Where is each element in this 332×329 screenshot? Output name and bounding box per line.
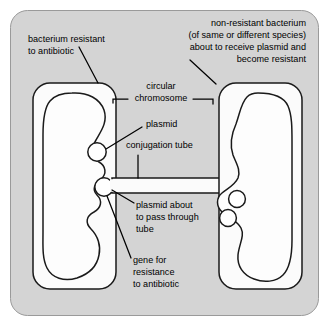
label-plasmid-passing-line-2: to pass through bbox=[136, 212, 199, 222]
label-resistance-gene-line-1: gene for bbox=[133, 255, 166, 265]
label-right-cell-line-4: become resistant bbox=[237, 54, 307, 64]
label-right-cell-line-2: (of same or different species) bbox=[188, 30, 306, 40]
right-plasmid-upper bbox=[229, 191, 246, 208]
label-left-cell-line-1: bacterium resistant bbox=[28, 34, 105, 44]
label-chromosome-line-1: circular bbox=[146, 81, 175, 91]
label-left-cell-line-2: to antibiotic bbox=[28, 46, 74, 56]
label-chromosome-line-2: chromosome bbox=[135, 93, 188, 103]
label-resistance-gene-line-2: resistance bbox=[133, 267, 174, 277]
label-right-cell-line-3: about to receive plasmid and bbox=[190, 42, 306, 52]
label-plasmid-passing-line-3: tube bbox=[136, 224, 154, 234]
right-plasmid-lower bbox=[220, 210, 237, 227]
label-right-cell-line-1: non-resistant bacterium bbox=[211, 18, 306, 28]
label-conjugation-tube: conjugation tube bbox=[126, 140, 193, 150]
conjugation-diagram: bacterium resistant to antibiotic non-re… bbox=[0, 0, 332, 329]
left-plasmid-upper bbox=[88, 143, 106, 161]
label-plasmid: plasmid bbox=[146, 119, 177, 129]
label-resistance-gene-line-3: to antibiotic bbox=[133, 279, 179, 289]
conjugation-tube bbox=[112, 178, 222, 193]
label-plasmid-passing-line-1: plasmid about bbox=[136, 200, 193, 210]
